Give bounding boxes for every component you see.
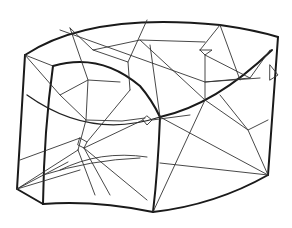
wireframe-drawing	[0, 0, 292, 228]
diagram-canvas	[0, 0, 292, 228]
front-face-edges	[27, 50, 272, 212]
outer-edges	[17, 22, 278, 212]
mesh-lines	[17, 20, 278, 212]
